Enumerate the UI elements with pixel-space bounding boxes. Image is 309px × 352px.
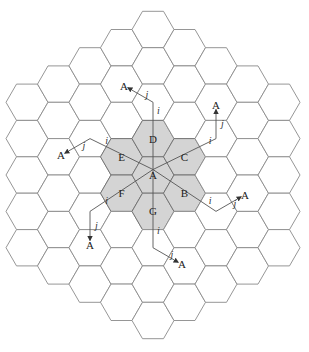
cochannel-cell-A-label: A <box>120 80 128 92</box>
cochannel-cell-A-label: A <box>212 99 220 111</box>
cell-label-E: E <box>118 151 125 163</box>
cell-label-G: G <box>149 205 157 217</box>
cochannel-cell-A-label: A <box>86 239 94 251</box>
i-label: i <box>209 195 212 206</box>
i-label: i <box>157 105 160 116</box>
hex-cell-diagram: ABCDEFG ijAijAijAijAijAijA <box>0 0 309 340</box>
cell-label-F: F <box>118 187 124 199</box>
i-label: i <box>105 195 108 206</box>
cell-label-B: B <box>181 187 188 199</box>
cochannel-cell-A-label: A <box>178 258 186 270</box>
i-label: i <box>209 135 212 146</box>
cochannel-cell-A-label: A <box>57 149 65 161</box>
cell-label-D: D <box>149 133 157 145</box>
i-label: i <box>105 135 108 146</box>
cell-label-A: A <box>149 169 157 181</box>
i-label: i <box>157 225 160 236</box>
cochannel-cell-A-label: A <box>241 189 249 201</box>
cell-label-C: C <box>181 151 188 163</box>
